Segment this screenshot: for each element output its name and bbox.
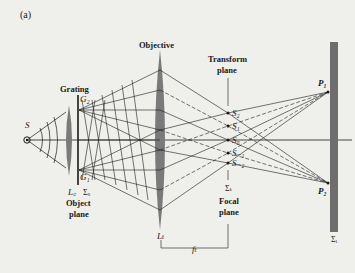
grating-label: Grating: [60, 84, 90, 94]
s-minus2-label: S₋₂: [232, 158, 244, 168]
sigma-t-label: Σₜ: [225, 184, 232, 193]
focal-length-label: fₜ: [192, 244, 198, 254]
transform-points: [227, 91, 330, 185]
object-plane-label-1: Object: [66, 198, 91, 208]
s1-label: S₁: [232, 121, 240, 131]
condenser-lens: [66, 105, 72, 176]
focal-plane-label-2: plane: [219, 207, 239, 217]
condenser-label: L꜀: [67, 187, 77, 197]
source-label: S: [25, 120, 30, 130]
object-plane-label-2: plane: [69, 209, 89, 219]
sigma-o-label: Σₒ: [83, 188, 91, 197]
p2-label: P₂: [318, 186, 327, 196]
s2-label: S₂: [232, 108, 240, 118]
g1-label: G₁: [80, 172, 90, 182]
abbe-imaging-diagram: (a) S Grating G₂ G₁ L꜀ Σₒ Object plane O…: [0, 0, 355, 273]
diffracted-rays: [79, 70, 160, 210]
figure-label: (a): [20, 9, 31, 21]
s-minus1-label: S₋₁: [232, 148, 244, 158]
transform-plane-label-2: plane: [217, 65, 237, 75]
image-screen: [330, 42, 338, 232]
sigma-i-label: Σᵢ: [331, 235, 338, 244]
objective-label: Objective: [139, 40, 174, 50]
p1-label: P₁: [318, 78, 327, 88]
focal-plane-label-1: Focal: [219, 196, 239, 206]
objective-lens-label: Lₜ: [156, 231, 165, 241]
diagram-canvas: (a) S Grating G₂ G₁ L꜀ Σₒ Object plane O…: [0, 0, 355, 273]
image-rays: [228, 92, 328, 183]
transform-plane-label-1: Transform: [208, 54, 247, 64]
g2-label: G₂: [80, 94, 90, 104]
s0-label: S₀: [232, 135, 240, 145]
